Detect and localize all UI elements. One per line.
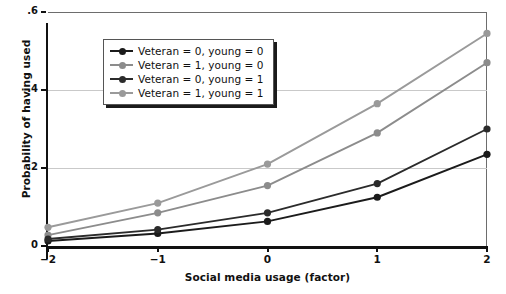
legend-item: Veteran = 0, young = 0 (110, 44, 264, 58)
legend-label: Veteran = 0, young = 0 (138, 45, 264, 57)
data-point (483, 125, 490, 132)
data-point (374, 194, 381, 201)
data-point (44, 235, 51, 242)
y-tick-mark (41, 11, 46, 13)
x-tick-label: 1 (357, 253, 397, 265)
chart-figure: Probability of having used Social media … (0, 0, 506, 294)
y-tick-label: 0 (0, 239, 38, 250)
legend-swatch-icon (110, 73, 133, 85)
data-point (374, 100, 381, 107)
data-point (264, 209, 271, 216)
y-axis-title: Probability of having used (20, 0, 32, 239)
data-point (44, 224, 51, 231)
plot-area: 0.2.4.6 −2−1012 Veteran = 0, young = 0Ve… (48, 12, 487, 246)
y-tick-label: .6 (0, 5, 38, 16)
legend-item: Veteran = 1, young = 1 (110, 86, 264, 100)
chart-legend: Veteran = 0, young = 0Veteran = 1, young… (103, 39, 274, 105)
x-tick-label: 0 (248, 253, 288, 265)
data-point (264, 161, 271, 168)
y-tick-label: .2 (0, 161, 38, 172)
legend-item: Veteran = 1, young = 0 (110, 58, 264, 72)
data-point (154, 200, 161, 207)
x-tick-mark (486, 246, 488, 252)
x-tick-mark (157, 246, 159, 252)
data-point (264, 218, 271, 225)
data-point (483, 151, 490, 158)
y-tick-label: .4 (0, 83, 38, 94)
legend-label: Veteran = 1, young = 1 (138, 87, 264, 99)
data-point (483, 59, 490, 66)
x-tick-label: 2 (467, 253, 506, 265)
x-tick-mark (376, 246, 378, 252)
data-point (154, 209, 161, 216)
legend-swatch-icon (110, 45, 133, 57)
x-axis-title: Social media usage (factor) (48, 271, 487, 283)
data-point (374, 129, 381, 136)
legend-swatch-icon (110, 59, 133, 71)
data-point (374, 180, 381, 187)
y-tick-mark (41, 245, 46, 247)
x-tick-mark (267, 246, 269, 252)
x-tick-label: −1 (138, 253, 178, 265)
x-tick-mark (47, 246, 49, 252)
y-tick-mark (41, 89, 46, 91)
legend-swatch-icon (110, 87, 133, 99)
legend-label: Veteran = 1, young = 0 (138, 59, 264, 71)
x-tick-label: −2 (28, 253, 68, 265)
legend-label: Veteran = 0, young = 1 (138, 73, 264, 85)
data-point (154, 226, 161, 233)
data-point (483, 30, 490, 37)
y-tick-mark (41, 167, 46, 169)
data-point (264, 182, 271, 189)
legend-item: Veteran = 0, young = 1 (110, 72, 264, 86)
